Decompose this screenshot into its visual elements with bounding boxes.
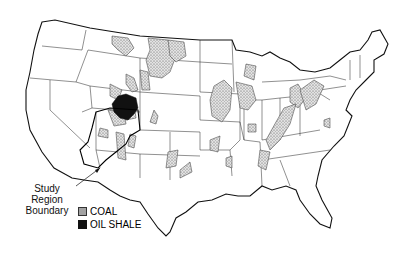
coal-swatch-icon <box>78 207 87 216</box>
study-region-label: Study Region Boundary <box>17 183 77 216</box>
oil-shale-swatch-icon <box>78 220 87 229</box>
legend-item-coal: COAL <box>78 205 141 217</box>
legend-label-coal: COAL <box>90 206 117 217</box>
study-region-label-line1: Study Region <box>17 183 77 205</box>
legend-label-oil-shale: OIL SHALE <box>90 219 141 230</box>
legend-item-oil-shale: OIL SHALE <box>78 218 141 230</box>
us-map <box>0 0 406 256</box>
study-region-label-line2: Boundary <box>17 205 77 216</box>
map-legend: COAL OIL SHALE <box>78 205 141 231</box>
us-outline <box>26 20 388 236</box>
